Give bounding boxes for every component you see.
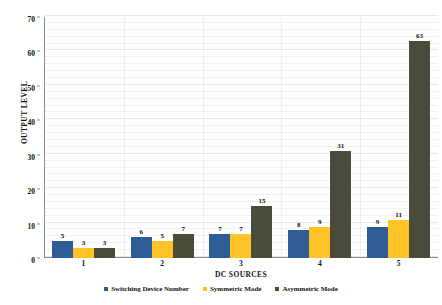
- y-axis-tick-mark: [37, 120, 40, 121]
- y-axis-tick-label: 0: [31, 256, 35, 260]
- y-axis-tick-labels: 010203040506070: [0, 17, 40, 258]
- bar-column[interactable]: 63: [409, 17, 430, 258]
- x-axis-tick-label: 4: [280, 259, 359, 268]
- y-axis-tick-label: 60: [28, 49, 36, 53]
- bar-value-label: 3: [89, 239, 119, 247]
- bar-column[interactable]: 3: [73, 17, 94, 258]
- bar[interactable]: [288, 230, 309, 258]
- bar-column[interactable]: 6: [131, 17, 152, 258]
- y-axis-tick-mark: [37, 51, 40, 52]
- x-axis-tick-label: 2: [123, 259, 202, 268]
- y-axis-tick-mark: [37, 258, 40, 259]
- bar[interactable]: [94, 248, 115, 258]
- legend-label: Switching Device Number: [111, 285, 189, 293]
- bar-group: 7715: [202, 17, 281, 258]
- y-axis-tick-mark: [37, 189, 40, 190]
- bar-group: 91163: [359, 17, 438, 258]
- legend-swatch-icon: [275, 287, 279, 291]
- bar[interactable]: [309, 227, 330, 258]
- legend-label: Asymmetric Mode: [282, 285, 337, 293]
- bar[interactable]: [330, 151, 351, 258]
- y-axis-tick-label: 20: [28, 187, 36, 191]
- bar-value-label: 63: [405, 32, 435, 40]
- bar[interactable]: [131, 237, 152, 258]
- x-axis-title: DC SOURCES: [44, 270, 438, 279]
- bar[interactable]: [152, 241, 173, 258]
- legend-label: Symmetric Mode: [210, 285, 262, 293]
- x-axis-tick-label: 3: [202, 259, 281, 268]
- gridline: [45, 15, 438, 16]
- x-axis-tick-labels: 12345: [44, 259, 438, 268]
- y-axis-tick-label: 40: [28, 118, 36, 122]
- y-axis-tick-mark: [37, 223, 40, 224]
- y-axis-tick-label: 50: [28, 84, 36, 88]
- bar-column[interactable]: 9: [309, 17, 330, 258]
- bar[interactable]: [73, 248, 94, 258]
- bar-column[interactable]: 31: [330, 17, 351, 258]
- y-axis-tick-label: 30: [28, 153, 36, 157]
- bar-column[interactable]: 7: [230, 17, 251, 258]
- legend-swatch-icon: [104, 287, 108, 291]
- bar[interactable]: [230, 234, 251, 258]
- bar-column[interactable]: 3: [94, 17, 115, 258]
- bar-value-label: 15: [247, 197, 277, 205]
- legend-item[interactable]: Symmetric Mode: [203, 285, 262, 293]
- bar[interactable]: [173, 234, 194, 258]
- bar[interactable]: [367, 227, 388, 258]
- y-axis-tick-mark: [37, 17, 40, 18]
- x-axis-tick-label: 5: [359, 259, 438, 268]
- bar-column[interactable]: 11: [388, 17, 409, 258]
- bar-chart: OUTPUT LEVEL 010203040506070 53365777158…: [0, 0, 442, 305]
- bar-column[interactable]: 15: [251, 17, 272, 258]
- bar[interactable]: [251, 206, 272, 258]
- bar[interactable]: [209, 234, 230, 258]
- bar-column[interactable]: 7: [209, 17, 230, 258]
- bar[interactable]: [388, 220, 409, 258]
- bar-column[interactable]: 9: [367, 17, 388, 258]
- bar-column[interactable]: 7: [173, 17, 194, 258]
- bar-value-label: 7: [168, 225, 198, 233]
- bar-groups: 5336577715893191163: [44, 17, 438, 258]
- bar-value-label: 31: [326, 142, 356, 150]
- y-axis-tick-label: 10: [28, 222, 36, 226]
- y-axis-tick-mark: [37, 85, 40, 86]
- x-axis-tick-label: 1: [44, 259, 123, 268]
- bar-column[interactable]: 5: [152, 17, 173, 258]
- legend-item[interactable]: Asymmetric Mode: [275, 285, 337, 293]
- legend-swatch-icon: [203, 287, 207, 291]
- legend-item[interactable]: Switching Device Number: [104, 285, 189, 293]
- bar-group: 657: [123, 17, 202, 258]
- bar[interactable]: [409, 41, 430, 258]
- bar-group: 8931: [280, 17, 359, 258]
- chart-legend: Switching Device NumberSymmetric ModeAsy…: [0, 285, 442, 293]
- bar-column[interactable]: 5: [52, 17, 73, 258]
- bar-group: 533: [44, 17, 123, 258]
- y-axis-tick-mark: [37, 154, 40, 155]
- y-axis-tick-label: 70: [28, 15, 36, 19]
